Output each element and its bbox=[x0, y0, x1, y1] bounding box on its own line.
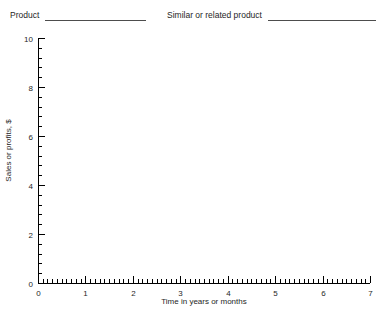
svg-text:6: 6 bbox=[29, 133, 34, 142]
chart-area: 012345670246810 Sales or profits, $ Time… bbox=[0, 0, 388, 314]
blank-plot-svg: 012345670246810 bbox=[0, 0, 388, 314]
svg-text:2: 2 bbox=[29, 231, 34, 240]
svg-text:10: 10 bbox=[24, 35, 33, 44]
x-axis-title: Time in years or months bbox=[38, 297, 370, 306]
svg-text:0: 0 bbox=[29, 280, 34, 289]
svg-text:4: 4 bbox=[29, 182, 34, 191]
svg-text:8: 8 bbox=[29, 84, 34, 93]
axes: 012345670246810 bbox=[24, 35, 373, 299]
